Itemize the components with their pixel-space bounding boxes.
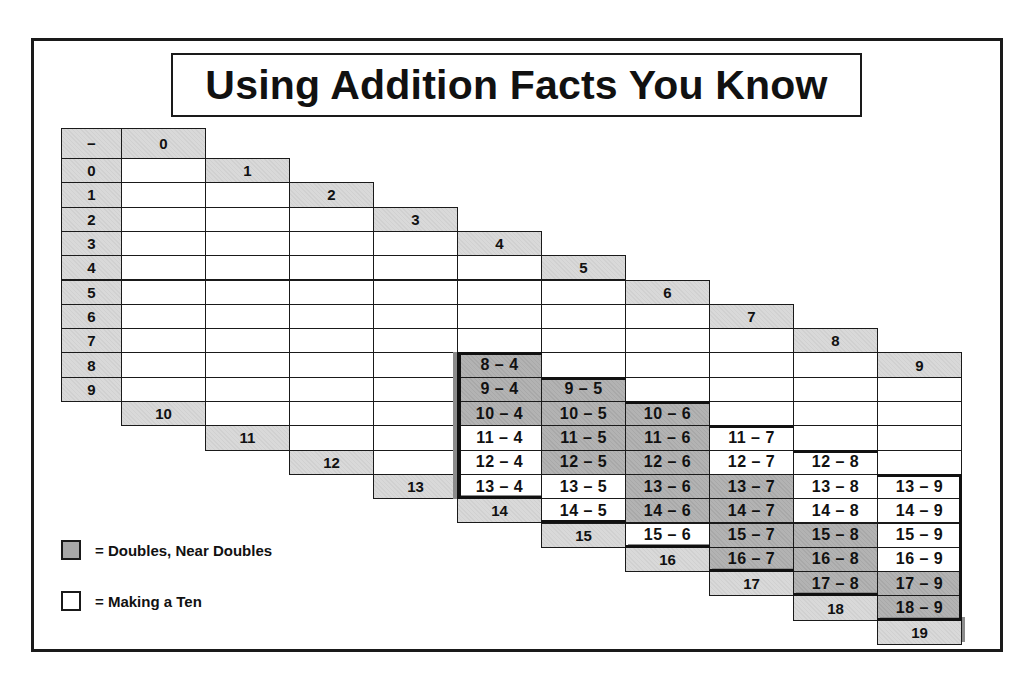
fact-cell: 12 – 4 xyxy=(457,450,542,475)
empty-cell xyxy=(121,352,206,377)
empty-cell xyxy=(289,255,374,280)
empty-cell xyxy=(541,328,626,353)
fact-cell: 12 – 8 xyxy=(793,450,878,475)
bottom-label: 10 xyxy=(121,401,206,426)
empty-cell xyxy=(709,352,794,377)
empty-cell xyxy=(625,304,710,329)
empty-cell xyxy=(373,377,458,402)
fact-cell: 10 – 4 xyxy=(457,401,542,426)
bottom-label: 16 xyxy=(625,547,710,572)
fact-cell: 14 – 8 xyxy=(793,498,878,523)
fact-cell: 13 – 4 xyxy=(457,474,542,499)
row-label: 0 xyxy=(61,158,122,183)
empty-cell xyxy=(373,425,458,450)
fact-cell: 14 – 7 xyxy=(709,498,794,523)
empty-cell xyxy=(205,280,290,305)
row-label: 2 xyxy=(61,207,122,232)
bottom-label: 13 xyxy=(373,474,458,499)
legend-label: = Making a Ten xyxy=(95,593,202,610)
empty-cell xyxy=(121,255,206,280)
fact-cell: 11 – 4 xyxy=(457,425,542,450)
empty-cell xyxy=(121,207,206,232)
bottom-label: 15 xyxy=(541,523,626,548)
fact-cell: 13 – 6 xyxy=(625,474,710,499)
fact-cell: 15 – 7 xyxy=(709,523,794,548)
empty-cell xyxy=(709,401,794,426)
empty-cell xyxy=(373,280,458,305)
empty-cell xyxy=(205,352,290,377)
column-header: 5 xyxy=(541,255,626,280)
fact-cell: 10 – 6 xyxy=(625,401,710,426)
fact-cell: 16 – 7 xyxy=(709,547,794,572)
empty-cell xyxy=(121,377,206,402)
empty-cell xyxy=(205,304,290,329)
empty-cell xyxy=(289,304,374,329)
empty-cell xyxy=(121,328,206,353)
bottom-label: 12 xyxy=(289,450,374,475)
empty-cell xyxy=(205,182,290,207)
fact-cell: 13 – 9 xyxy=(877,474,962,499)
fact-cell: 11 – 5 xyxy=(541,425,626,450)
bottom-label: 11 xyxy=(205,425,290,450)
empty-cell xyxy=(709,377,794,402)
fact-cell: 15 – 9 xyxy=(877,523,962,548)
empty-cell xyxy=(373,231,458,256)
fact-cell: 13 – 5 xyxy=(541,474,626,499)
column-header: 4 xyxy=(457,231,542,256)
empty-cell xyxy=(205,255,290,280)
bottom-label: 17 xyxy=(709,571,794,596)
empty-cell xyxy=(877,425,962,450)
fact-cell: 14 – 9 xyxy=(877,498,962,523)
empty-cell xyxy=(373,401,458,426)
fact-cell: 15 – 6 xyxy=(625,523,710,548)
legend-item-making-ten: = Making a Ten xyxy=(61,591,202,611)
empty-cell xyxy=(793,352,878,377)
row-label: 8 xyxy=(61,352,122,377)
fact-cell: 16 – 9 xyxy=(877,547,962,572)
column-header: 3 xyxy=(373,207,458,232)
empty-cell xyxy=(793,377,878,402)
empty-cell xyxy=(625,377,710,402)
empty-cell xyxy=(289,207,374,232)
empty-cell xyxy=(121,231,206,256)
empty-cell xyxy=(289,401,374,426)
subtraction-table: −012345678901011121231348 – 49 – 410 – 4… xyxy=(0,0,1035,687)
empty-cell xyxy=(457,328,542,353)
empty-cell xyxy=(877,450,962,475)
empty-cell xyxy=(541,280,626,305)
empty-cell xyxy=(289,377,374,402)
empty-cell xyxy=(121,182,206,207)
empty-cell xyxy=(289,328,374,353)
empty-cell xyxy=(205,231,290,256)
fact-cell: 12 – 6 xyxy=(625,450,710,475)
fact-cell: 9 – 4 xyxy=(457,377,542,402)
empty-cell xyxy=(373,450,458,475)
empty-cell xyxy=(289,352,374,377)
fact-cell: 14 – 6 xyxy=(625,498,710,523)
empty-cell xyxy=(373,328,458,353)
row-label: 7 xyxy=(61,328,122,353)
column-header: 6 xyxy=(625,280,710,305)
empty-cell xyxy=(457,255,542,280)
fact-cell: 17 – 8 xyxy=(793,571,878,596)
row-label: 3 xyxy=(61,231,122,256)
empty-cell xyxy=(709,328,794,353)
empty-cell xyxy=(373,304,458,329)
empty-cell xyxy=(457,304,542,329)
empty-cell xyxy=(205,401,290,426)
empty-cell xyxy=(205,207,290,232)
empty-cell xyxy=(793,425,878,450)
corner-minus-symbol: − xyxy=(61,128,122,159)
fact-cell: 18 – 9 xyxy=(877,595,962,620)
fact-cell: 8 – 4 xyxy=(457,352,542,377)
empty-cell xyxy=(121,158,206,183)
fact-cell: 11 – 7 xyxy=(709,425,794,450)
fact-cell: 16 – 8 xyxy=(793,547,878,572)
fact-cell: 14 – 5 xyxy=(541,498,626,523)
gray-swatch-icon xyxy=(61,540,81,560)
empty-cell xyxy=(877,401,962,426)
empty-cell xyxy=(289,280,374,305)
empty-cell xyxy=(205,328,290,353)
column-header: 9 xyxy=(877,352,962,377)
empty-cell xyxy=(373,352,458,377)
